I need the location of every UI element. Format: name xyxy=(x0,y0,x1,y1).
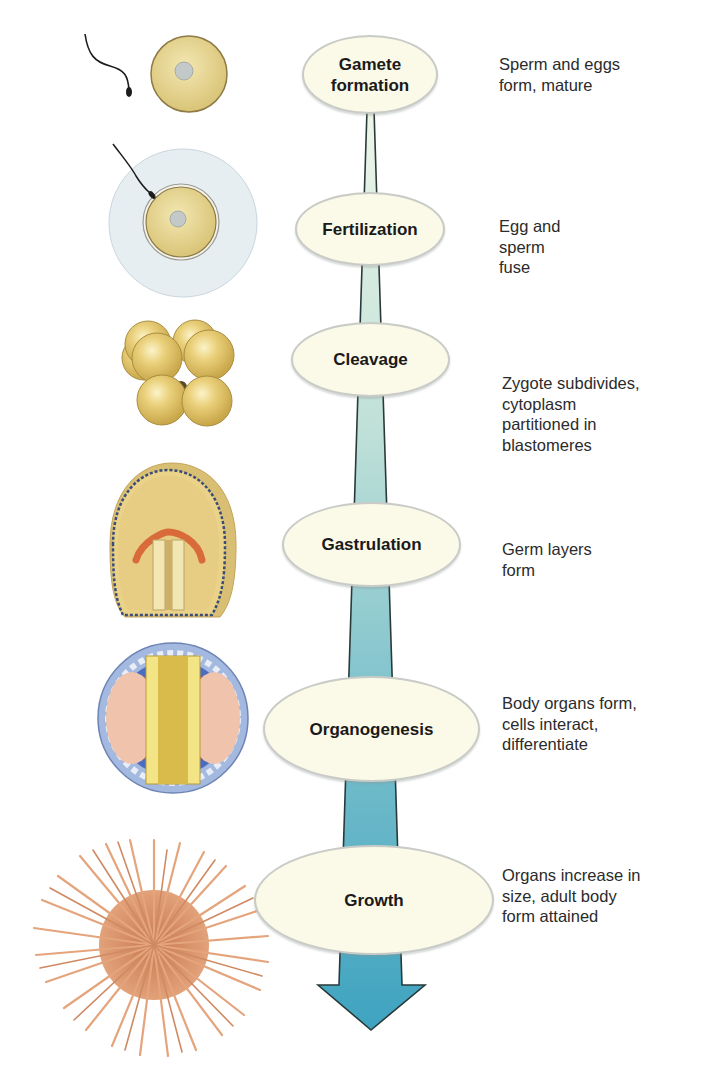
stage-label: Gamete formation xyxy=(331,54,409,96)
description-cleavage: Zygote subdivides, cytoplasm partitioned… xyxy=(502,373,640,455)
stage-label: Cleavage xyxy=(333,349,408,370)
neurula-illustration xyxy=(98,643,248,793)
description-fertilization: Egg and sperm fuse xyxy=(499,216,560,278)
stage-gastrulation: Gastrulation xyxy=(282,502,461,587)
sea-urchin-illustration xyxy=(34,840,268,1056)
description-gastrulation: Germ layers form xyxy=(502,539,592,580)
fertilization-illustration xyxy=(109,144,257,297)
eight-cell-embryo-illustration xyxy=(122,320,234,426)
stage-gamete-formation: Gamete formation xyxy=(302,35,438,114)
description-gamete-formation: Sperm and eggs form, mature xyxy=(499,54,620,95)
stage-organogenesis: Organogenesis xyxy=(263,676,480,782)
stage-growth: Growth xyxy=(254,845,494,955)
sperm-and-egg-illustration xyxy=(85,34,227,112)
development-diagram: Gamete formation Fertilization Cleavage … xyxy=(0,0,709,1082)
description-organogenesis: Body organs form, cells interact, differ… xyxy=(502,693,637,755)
stage-label: Fertilization xyxy=(322,219,417,240)
stage-cleavage: Cleavage xyxy=(291,322,450,397)
description-growth: Organs increase in size, adult body form… xyxy=(502,865,641,927)
stage-fertilization: Fertilization xyxy=(295,192,445,266)
gastrula-illustration xyxy=(110,463,236,617)
stage-label: Gastrulation xyxy=(321,534,421,555)
stage-label: Organogenesis xyxy=(310,719,434,740)
stage-label: Growth xyxy=(344,890,404,911)
